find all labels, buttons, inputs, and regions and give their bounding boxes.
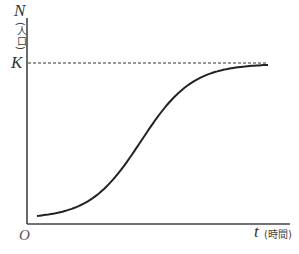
- y-axis-symbol: N: [14, 1, 25, 21]
- logistic-curve: [37, 65, 268, 216]
- x-axis-symbol: t: [254, 222, 259, 242]
- x-axis-unit: (時間): [264, 226, 292, 241]
- origin-label: O: [19, 227, 30, 244]
- logistic-chart: [0, 0, 299, 254]
- k-label: K: [11, 53, 22, 73]
- y-axis-unit: (人口): [15, 22, 25, 50]
